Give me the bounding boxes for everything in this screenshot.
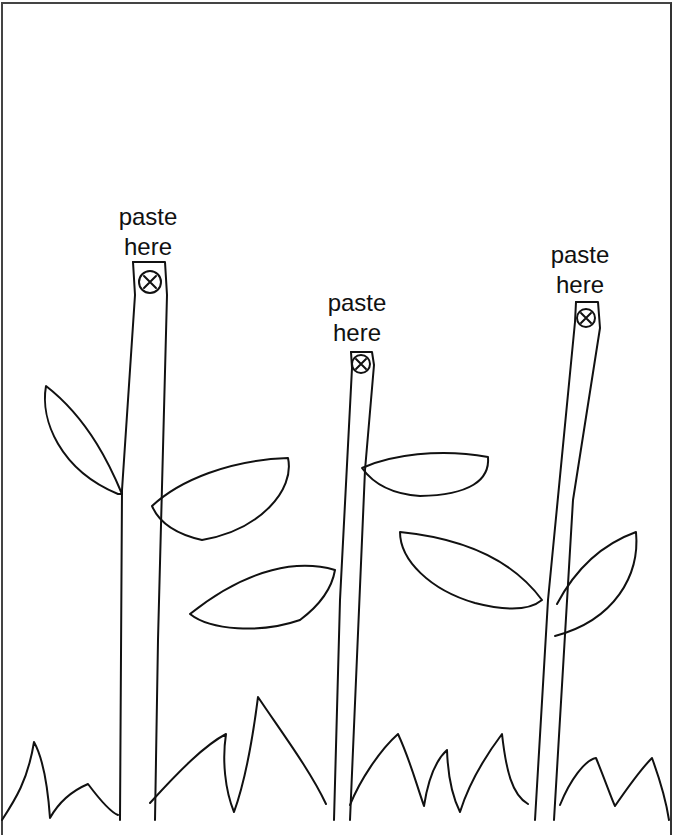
paste-target-middle[interactable] [352,355,370,373]
worksheet-page: paste here paste here paste here [0,0,678,835]
leaf-left-2 [152,458,289,540]
leaf-left-1 [45,386,122,494]
leaf-right-1 [400,532,542,609]
leaf-middle-1 [362,453,488,496]
paste-target-right[interactable] [577,309,595,327]
leaf-middle-2 [190,566,335,629]
stem-middle [334,352,374,820]
paste-target-left[interactable] [139,271,161,293]
stem-left [120,262,167,820]
